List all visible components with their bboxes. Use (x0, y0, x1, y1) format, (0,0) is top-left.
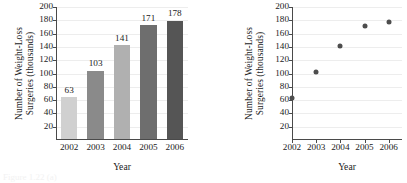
bar: 171 (140, 25, 156, 139)
scatter-chart-y-axis-title: Number of Weight-Loss Surgeries (thousan… (244, 7, 266, 140)
x-tick-label: 2004 (331, 143, 349, 152)
y-tick-mark (289, 34, 293, 35)
y-tick-label: 40 (280, 109, 289, 118)
x-tick-label: 2002 (283, 143, 301, 152)
scatter-chart-y-axis-title-line2: Surgeries (thousands) (255, 7, 266, 140)
scatter-point (386, 19, 391, 24)
x-tick-label: 2002 (60, 143, 78, 152)
bar: 178 (167, 21, 183, 139)
x-tick-label: 2003 (307, 143, 325, 152)
y-tick-mark (53, 47, 57, 48)
y-tick-mark (53, 87, 57, 88)
gridline (293, 60, 402, 61)
bar-chart-y-axis-title-line1: Number of Weight-Loss (14, 7, 25, 140)
y-tick-label: 20 (44, 122, 53, 131)
y-tick-label: 80 (44, 82, 53, 91)
gridline (293, 127, 402, 128)
y-tick-mark (53, 100, 57, 101)
y-tick-mark (289, 20, 293, 21)
x-tick-label: 2005 (355, 143, 373, 152)
y-tick-mark (289, 74, 293, 75)
y-tick-mark (289, 87, 293, 88)
scatter-chart-x-axis-title: Year (338, 162, 356, 172)
x-tick-label: 2006 (166, 143, 184, 152)
y-tick-mark (289, 113, 293, 114)
y-tick-label: 120 (39, 56, 53, 65)
y-tick-mark (53, 74, 57, 75)
figure-caption-fragment: Figure 1.22 (a) (3, 172, 57, 183)
y-tick-label: 120 (275, 56, 289, 65)
x-tick-label: 2004 (113, 143, 131, 152)
gridline (293, 100, 402, 101)
y-tick-label: 60 (280, 95, 289, 104)
x-tick-label: 2005 (139, 143, 157, 152)
y-tick-mark (289, 7, 293, 8)
y-tick-label: 140 (39, 42, 53, 51)
y-tick-mark (53, 7, 57, 8)
bar-value-label: 103 (89, 59, 103, 68)
y-tick-mark (289, 47, 293, 48)
y-tick-label: 60 (44, 95, 53, 104)
scatter-chart-y-axis-title-line1: Number of Weight-Loss (244, 7, 255, 140)
bar: 63 (61, 97, 77, 139)
y-tick-label: 200 (39, 2, 53, 11)
y-tick-mark (53, 20, 57, 21)
bar-chart-plot-area: 20018016014012010080604020 6310314117117… (56, 7, 188, 140)
y-tick-mark (53, 34, 57, 35)
y-tick-label: 80 (280, 82, 289, 91)
y-tick-label: 100 (39, 69, 53, 78)
y-tick-mark (53, 113, 57, 114)
scatter-point (314, 69, 319, 74)
bar-chart-y-axis-title-line2: Surgeries (thousands) (25, 7, 36, 140)
bar-value-label: 171 (141, 14, 155, 23)
scatter-point (338, 44, 343, 49)
y-tick-label: 40 (44, 109, 53, 118)
y-tick-label: 180 (275, 16, 289, 25)
y-tick-mark (53, 60, 57, 61)
gridline (293, 74, 402, 75)
y-tick-label: 140 (275, 42, 289, 51)
bar-chart-x-axis-title: Year (113, 162, 131, 172)
bar-chart-x-axis-line (56, 139, 188, 140)
gridline (293, 47, 402, 48)
gridline (293, 7, 402, 8)
bar-value-label: 63 (65, 86, 74, 95)
bar: 103 (87, 71, 103, 139)
gridline (293, 87, 402, 88)
scatter-chart-plot-area: 20018016014012010080604020 2002200320042… (292, 7, 402, 140)
y-tick-label: 100 (275, 69, 289, 78)
scatter-point (362, 24, 367, 29)
bar: 141 (114, 45, 130, 139)
y-tick-mark (53, 127, 57, 128)
y-tick-label: 160 (275, 29, 289, 38)
scatter-chart-panel: Number of Weight-Loss Surgeries (thousan… (204, 0, 407, 183)
x-tick-label: 2006 (380, 143, 398, 152)
gridline (293, 34, 402, 35)
y-tick-label: 160 (39, 29, 53, 38)
y-tick-label: 200 (275, 2, 289, 11)
y-tick-label: 180 (39, 16, 53, 25)
scatter-chart-x-axis-line (292, 139, 402, 140)
y-tick-mark (289, 60, 293, 61)
y-tick-mark (289, 127, 293, 128)
x-tick-label: 2003 (86, 143, 104, 152)
bar-value-label: 178 (168, 9, 182, 18)
gridline (293, 113, 402, 114)
bar-value-label: 141 (115, 34, 129, 43)
bar-chart-y-axis-title: Number of Weight-Loss Surgeries (thousan… (14, 7, 36, 140)
scatter-point (290, 96, 295, 101)
y-tick-label: 20 (280, 122, 289, 131)
figure-container: Number of Weight-Loss Surgeries (thousan… (0, 0, 407, 183)
bar-chart-panel: Number of Weight-Loss Surgeries (thousan… (0, 0, 203, 183)
